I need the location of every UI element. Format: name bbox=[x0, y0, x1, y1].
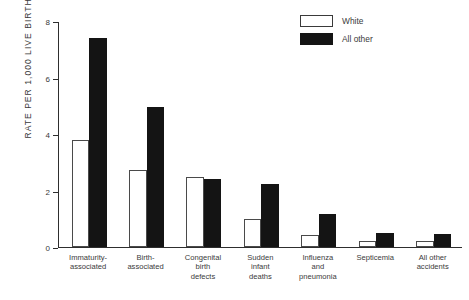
bar-chart: RATE PER 1,000 LIVE BIRTHS 02468 Immatur… bbox=[0, 0, 469, 300]
y-tick-label: 4 bbox=[46, 131, 50, 140]
bar-white bbox=[129, 170, 147, 247]
legend-item-white: White bbox=[300, 14, 373, 28]
bar-group bbox=[59, 23, 116, 247]
legend: White All other bbox=[300, 14, 373, 50]
y-tick-label: 2 bbox=[46, 187, 50, 196]
bar-group bbox=[232, 23, 289, 247]
legend-label-all-other: All other bbox=[342, 34, 373, 44]
bar-series-container bbox=[59, 23, 461, 247]
bar-all-other bbox=[261, 184, 279, 247]
legend-swatch-all-other-icon bbox=[300, 33, 333, 45]
x-axis-line bbox=[58, 247, 462, 248]
bar-white bbox=[186, 177, 204, 247]
bar-white bbox=[416, 241, 434, 247]
y-tick-label: 0 bbox=[46, 244, 50, 253]
bar-white bbox=[301, 235, 319, 246]
y-tick-label: 8 bbox=[46, 18, 50, 27]
bar-white bbox=[359, 241, 377, 247]
y-tick-mark bbox=[53, 248, 58, 249]
legend-item-all-other: All other bbox=[300, 32, 373, 46]
y-tick-mark bbox=[53, 135, 58, 136]
legend-label-white: White bbox=[342, 16, 363, 26]
bar-all-other bbox=[147, 107, 165, 247]
bar-all-other bbox=[319, 214, 337, 246]
y-tick-mark bbox=[53, 22, 58, 23]
bar-all-other bbox=[376, 233, 394, 247]
bar-all-other bbox=[434, 234, 452, 247]
legend-swatch-white-icon bbox=[300, 15, 333, 27]
plot-area: 02468 bbox=[58, 22, 462, 248]
bar-group bbox=[347, 23, 404, 247]
bar-white bbox=[244, 219, 262, 247]
y-axis-title: RATE PER 1,000 LIVE BIRTHS bbox=[23, 0, 33, 155]
y-tick-label: 6 bbox=[46, 74, 50, 83]
bar-group bbox=[404, 23, 461, 247]
bar-group bbox=[174, 23, 231, 247]
bar-group bbox=[289, 23, 346, 247]
bar-all-other bbox=[204, 179, 222, 246]
y-tick-mark bbox=[53, 79, 58, 80]
bar-all-other bbox=[89, 38, 107, 247]
bar-white bbox=[72, 140, 90, 246]
x-category-label: All otheraccidents bbox=[398, 253, 467, 272]
y-tick-mark bbox=[53, 192, 58, 193]
bar-group bbox=[117, 23, 174, 247]
